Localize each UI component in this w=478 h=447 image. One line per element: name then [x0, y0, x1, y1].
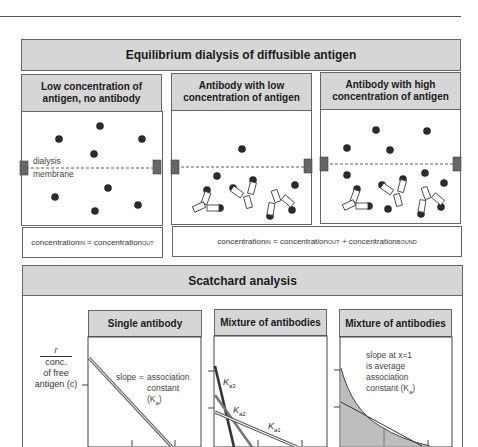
label-ka3: Ka3	[223, 377, 236, 389]
ka2-sub: a2	[239, 411, 246, 417]
note-is-average: is average	[366, 361, 415, 372]
note-constant-open: constant (K	[366, 383, 409, 393]
label-ka1: Ka1	[268, 421, 281, 433]
ka1-sub: a1	[274, 427, 281, 433]
note-association-2: association	[366, 372, 415, 383]
note-constant-close: )	[412, 383, 415, 393]
note-slope-at-x1: slope at x=1	[366, 350, 415, 361]
note-ka-open: (K	[147, 394, 156, 404]
average-slope-note: slope at x=1 is average association cons…	[366, 350, 415, 398]
note-ka-close: )	[159, 394, 162, 404]
note-association: association	[147, 372, 190, 383]
single-slope-note: slope =	[116, 372, 144, 383]
note-ka: (Ka)	[147, 394, 190, 409]
note-constant-ka-bar: constant (Ka)	[366, 383, 415, 398]
ka3-sub: a3	[229, 383, 236, 389]
single-slope-meaning: association constant (Ka)	[147, 372, 190, 409]
slope-label: slope =	[116, 372, 144, 382]
note-constant: constant	[147, 383, 190, 394]
label-ka2: Ka2	[233, 405, 246, 417]
